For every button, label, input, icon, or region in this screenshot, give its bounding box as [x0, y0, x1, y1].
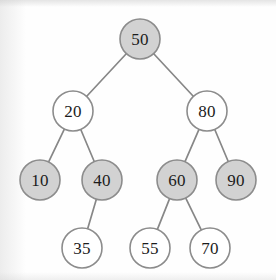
tree-node-55[interactable]: 55 — [130, 228, 170, 268]
node-label-90: 90 — [227, 171, 244, 190]
tree-node-90[interactable]: 90 — [216, 160, 256, 200]
tree-node-60[interactable]: 60 — [157, 160, 197, 200]
tree-edge-20-40 — [81, 129, 95, 162]
node-label-35: 35 — [73, 239, 90, 258]
tree-canvas: 50208010406090355570 — [0, 0, 276, 280]
tree-edge-20-10 — [48, 129, 64, 163]
tree-edge-80-90 — [215, 129, 229, 162]
tree-edge-60-55 — [157, 198, 170, 230]
tree-edge-80-60 — [185, 129, 199, 162]
tree-edge-50-20 — [86, 53, 126, 96]
tree-edge-60-70 — [186, 198, 202, 231]
tree-node-35[interactable]: 35 — [62, 228, 102, 268]
tree-edge-40-35 — [88, 199, 97, 230]
node-label-60: 60 — [168, 171, 185, 190]
node-label-55: 55 — [141, 239, 158, 258]
binary-search-tree-diagram: 50208010406090355570 — [0, 0, 276, 280]
node-label-70: 70 — [201, 239, 218, 258]
tree-node-10[interactable]: 10 — [20, 160, 60, 200]
node-label-40: 40 — [93, 171, 110, 190]
node-label-20: 20 — [64, 102, 81, 121]
tree-node-70[interactable]: 70 — [190, 228, 230, 268]
node-label-80: 80 — [198, 102, 215, 121]
tree-edge-50-80 — [153, 53, 193, 96]
tree-node-80[interactable]: 80 — [187, 91, 227, 131]
node-label-50: 50 — [131, 30, 148, 49]
tree-node-20[interactable]: 20 — [53, 91, 93, 131]
edges-group — [48, 53, 228, 230]
tree-node-40[interactable]: 40 — [82, 160, 122, 200]
tree-node-50[interactable]: 50 — [120, 19, 160, 59]
node-label-10: 10 — [31, 171, 48, 190]
